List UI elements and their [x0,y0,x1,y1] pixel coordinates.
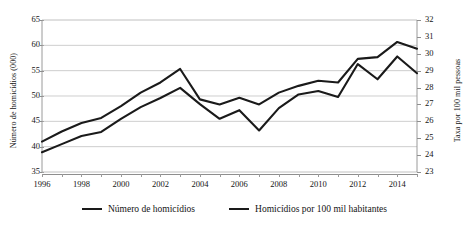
legend-label: Homicídios por 100 mil habitantes [255,204,387,214]
series-lines [42,42,417,152]
x-axis-tick [279,174,280,177]
y-axis-right-tick [417,71,421,72]
x-axis-tick [318,174,319,177]
x-axis-tick [220,174,221,177]
y-axis-left-tick-label: 40 [22,141,40,151]
y-axis-right-title: Taxa por 100 mil pessoas [453,36,462,166]
y-axis-right-tick-label: 28 [425,82,443,92]
x-axis-tick [259,174,260,177]
y-axis-right-tick-label: 31 [425,31,443,41]
x-axis-tick-label: 2012 [341,179,375,189]
y-axis-right-tick [417,20,421,21]
x-axis-tick [397,174,398,177]
homicide-trend-chart: Número de homicídios (000) Taxa por 100 … [0,0,469,229]
y-axis-left-tick-label: 60 [22,39,40,49]
y-axis-right-tick [417,172,421,173]
y-axis-right-tick-label: 24 [425,149,443,159]
y-axis-right-tick [417,88,421,89]
y-axis-right-tick-label: 25 [425,132,443,142]
x-axis-tick [180,174,181,177]
legend-item-1[interactable]: Número de homicídios [82,204,195,214]
x-axis-tick-label: 2006 [222,179,256,189]
x-axis-line [42,174,417,175]
x-axis-tick [417,174,418,177]
y-axis-left-tick-label: 50 [22,90,40,100]
x-axis-tick-label: 2014 [380,179,414,189]
y-axis-right-tick-label: 26 [425,115,443,125]
x-axis-tick [42,174,43,177]
plot-area [42,20,417,172]
x-axis-tick-label: 1998 [64,179,98,189]
y-axis-right-tick [417,104,421,105]
x-axis-tick-label: 2000 [104,179,138,189]
x-axis-tick [239,174,240,177]
gridlines [42,20,417,172]
y-axis-right-tick [417,138,421,139]
y-axis-right-tick-label: 32 [425,14,443,24]
y-axis-left-tick-label: 65 [22,14,40,24]
x-axis-tick-label: 1996 [25,179,59,189]
y-axis-right-tick [417,121,421,122]
x-axis-tick [299,174,300,177]
y-axis-right-tick-label: 30 [425,48,443,58]
y-axis-right: 23242526272829303132 [419,0,441,229]
y-axis-left-title: Número de homicídios (000) [9,36,18,166]
x-axis-tick [81,174,82,177]
legend-item-2[interactable]: Homicídios por 100 mil habitantes [229,204,387,214]
y-axis-right-tick [417,155,421,156]
legend-line-swatch [229,208,249,210]
y-axis-right-tick [417,37,421,38]
x-axis-tick-label: 2002 [143,179,177,189]
x-axis-tick-label: 2004 [183,179,217,189]
x-axis-tick-label: 2010 [301,179,335,189]
x-axis-tick-label: 2008 [262,179,296,189]
y-axis-right-tick-label: 27 [425,98,443,108]
x-axis-tick [358,174,359,177]
x-axis-tick [200,174,201,177]
x-axis-tick [101,174,102,177]
legend-label: Número de homicídios [108,204,195,214]
x-axis-tick [160,174,161,177]
chart-legend: Número de homicídiosHomicídios por 100 m… [0,198,469,220]
y-axis-left: 35404550556065 [20,0,40,229]
y-axis-left-tick-label: 55 [22,65,40,75]
y-axis-right-tick-label: 29 [425,65,443,75]
legend-line-swatch [82,208,102,210]
x-axis-tick [62,174,63,177]
x-axis-tick [338,174,339,177]
plot-svg [42,20,417,172]
x-axis: 1996199820002002200420062008201020122014 [0,174,469,190]
series-line-2 [42,42,417,142]
y-axis-left-tick-label: 45 [22,115,40,125]
y-axis-right-tick [417,54,421,55]
x-axis-tick [141,174,142,177]
x-axis-tick [121,174,122,177]
x-axis-tick [378,174,379,177]
